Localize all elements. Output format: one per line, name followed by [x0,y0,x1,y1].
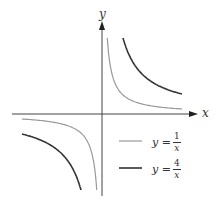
curve-1-over-x-q3 [22,119,97,190]
y-axis-arrow-icon [99,21,105,30]
hyperbola-plot [0,0,219,206]
denominator: x [174,143,179,153]
x-axis-arrow-icon [189,111,198,117]
legend-entry-1-over-x: y = 1 x [152,132,181,153]
legend-lhs: y = [152,163,171,176]
curve-4-over-x-q3 [22,134,81,190]
legend-entry-4-over-x: y = 4 x [152,159,181,180]
numerator: 4 [173,159,181,170]
y-axis-label: y [99,8,106,20]
fraction: 4 x [173,159,181,180]
curve-1-over-x-q1 [107,38,182,109]
legend-lhs: y = [152,136,171,149]
curve-4-over-x-q1 [123,38,182,94]
numerator: 1 [173,132,181,143]
fraction: 1 x [173,132,181,153]
denominator: x [174,170,179,180]
x-axis-label: x [202,107,209,119]
